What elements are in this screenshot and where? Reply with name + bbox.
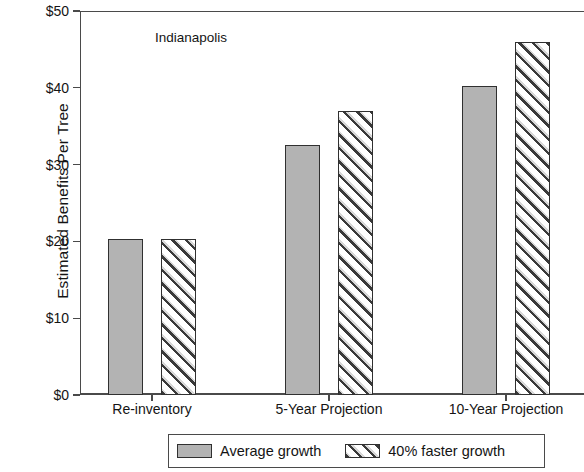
y-axis-tick: $10 xyxy=(73,318,80,319)
y-axis-tick: $0 xyxy=(73,394,80,395)
bar-chart: Estimated Benefits Per Tree $0$10$20$30$… xyxy=(0,0,584,472)
y-axis-tick: $30 xyxy=(73,164,80,165)
legend-swatch-solid-icon xyxy=(177,444,212,458)
x-axis-tick-label: 10-Year Projection xyxy=(449,401,564,417)
y-axis-tick: $50 xyxy=(73,10,80,11)
plot-annotation-city: Indianapolis xyxy=(155,30,227,45)
chart-legend: Average growth 40% faster growth xyxy=(168,434,545,468)
y-axis-tick-label: $0 xyxy=(53,387,69,403)
bar xyxy=(108,239,143,395)
x-axis-tick-label: Re-inventory xyxy=(112,401,191,417)
x-axis-tick-label: 5-Year Projection xyxy=(276,401,383,417)
bar xyxy=(285,145,320,395)
y-axis-tick-label: $50 xyxy=(46,3,69,19)
y-axis-tick-label: $10 xyxy=(46,310,69,326)
bar xyxy=(338,111,373,395)
plot-top-border xyxy=(80,11,584,12)
legend-item-faster-growth: 40% faster growth xyxy=(345,443,505,459)
y-axis-line xyxy=(80,11,81,395)
legend-label-average-growth: Average growth xyxy=(220,443,321,459)
bar xyxy=(462,86,497,396)
bar xyxy=(161,239,196,395)
y-axis-tick-label: $40 xyxy=(46,79,69,95)
bar xyxy=(515,42,550,395)
legend-swatch-hatch-icon xyxy=(345,444,380,458)
legend-item-average-growth: Average growth xyxy=(177,443,321,459)
plot-area: $0$10$20$30$40$50 Indianapolis xyxy=(80,11,584,395)
x-axis-line xyxy=(80,393,584,395)
y-axis-tick-label: $20 xyxy=(46,233,69,249)
y-axis-tick: $20 xyxy=(73,241,80,242)
y-axis-tick-label: $30 xyxy=(46,156,69,172)
y-axis-tick: $40 xyxy=(73,87,80,88)
legend-label-faster-growth: 40% faster growth xyxy=(388,443,505,459)
